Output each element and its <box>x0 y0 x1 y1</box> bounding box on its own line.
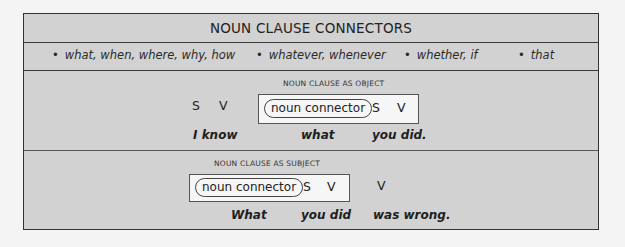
bullet-icon: • <box>404 48 411 62</box>
noun-clause-as-object-section: NOUN CLAUSE AS OBJECT S V noun connector… <box>24 70 598 151</box>
noun-clause-as-subject-section: NOUN CLAUSE AS SUBJECT noun connector S … <box>24 150 598 230</box>
example-clause-rest: you did. <box>372 128 427 142</box>
clause-verb-marker: V <box>397 100 406 115</box>
example-main-clause: I know <box>193 128 238 142</box>
bullet-icon: • <box>256 48 263 62</box>
section-label: NOUN CLAUSE AS OBJECT <box>283 79 384 88</box>
connector-group-text: whatever, whenever <box>269 48 386 62</box>
main-subject-marker: S <box>192 98 200 113</box>
example-connector: what <box>301 128 334 142</box>
chart-title: NOUN CLAUSE CONNECTORS <box>210 20 412 36</box>
connector-group-ever-words: •whatever, whenever <box>256 48 386 62</box>
connector-group-text: whether, if <box>417 48 478 62</box>
example-clause-rest: you did <box>301 208 351 222</box>
example-connector: What <box>231 208 267 222</box>
noun-clause-box: noun connector S V <box>258 94 419 124</box>
connector-group-that: •that <box>518 48 554 62</box>
chart-title-row: NOUN CLAUSE CONNECTORS <box>24 14 598 43</box>
connectors-list-row: •what, when, where, why, how •whatever, … <box>24 42 598 71</box>
clause-subject-marker: S <box>303 179 311 194</box>
bullet-icon: • <box>52 48 59 62</box>
clause-verb-marker: V <box>327 179 336 194</box>
connector-group-text: that <box>531 48 554 62</box>
section-label: NOUN CLAUSE AS SUBJECT <box>214 159 320 168</box>
noun-connector-pill: noun connector <box>195 178 303 197</box>
connector-group-text: what, when, where, why, how <box>65 48 235 62</box>
connector-group-wh-words: •what, when, where, why, how <box>52 48 235 62</box>
clause-subject-marker: S <box>372 100 380 115</box>
main-verb-marker: V <box>219 98 228 113</box>
main-verb-marker: V <box>377 178 386 193</box>
connector-group-whether-if: •whether, if <box>404 48 478 62</box>
bullet-icon: • <box>518 48 525 62</box>
noun-connector-pill: noun connector <box>264 99 372 118</box>
noun-clause-connectors-chart: NOUN CLAUSE CONNECTORS •what, when, wher… <box>23 13 599 230</box>
example-main-verb-phrase: was wrong. <box>373 208 450 222</box>
noun-clause-box: noun connector S V <box>189 174 350 202</box>
